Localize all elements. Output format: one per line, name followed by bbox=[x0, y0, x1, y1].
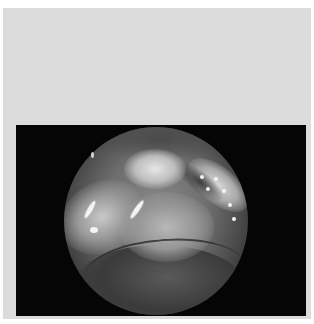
gray-panel bbox=[3, 8, 311, 319]
specular-highlight bbox=[232, 217, 236, 221]
image-frame bbox=[16, 125, 306, 316]
specular-highlight bbox=[222, 189, 226, 193]
glint-dot bbox=[91, 152, 94, 158]
specular-highlight bbox=[228, 203, 232, 207]
specular-highlight bbox=[206, 187, 210, 191]
bright-upper-tissue bbox=[124, 149, 186, 189]
specular-highlight bbox=[200, 175, 204, 179]
specular-highlight bbox=[90, 227, 98, 233]
specular-highlight bbox=[214, 177, 218, 181]
